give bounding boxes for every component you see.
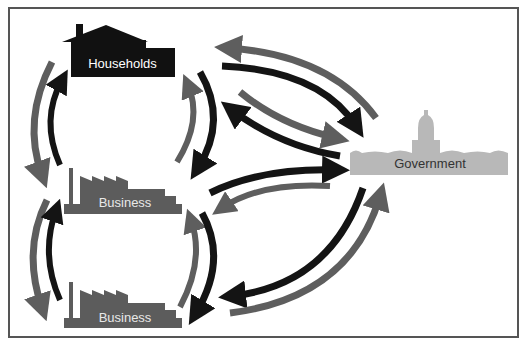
- flow-arrows-households-business-right: [177, 72, 214, 168]
- flow-arrows-business-business-left: [33, 200, 60, 308]
- business-bottom-label: Business: [80, 310, 170, 325]
- flow-arrows-government-business-bottom: [230, 188, 380, 313]
- circular-flow-diagram: [0, 0, 528, 350]
- flow-arrows-business-business-right: [180, 213, 214, 313]
- households-label: Households: [70, 56, 175, 71]
- business-top-label: Business: [80, 195, 170, 210]
- government-label: Government: [350, 156, 510, 171]
- flow-arrows-business-government: [210, 170, 336, 208]
- flow-arrows-households-business-left: [34, 62, 62, 175]
- flow-arrows-households-government-mid: [232, 92, 340, 156]
- flow-arrows-households-government-top: [222, 48, 376, 126]
